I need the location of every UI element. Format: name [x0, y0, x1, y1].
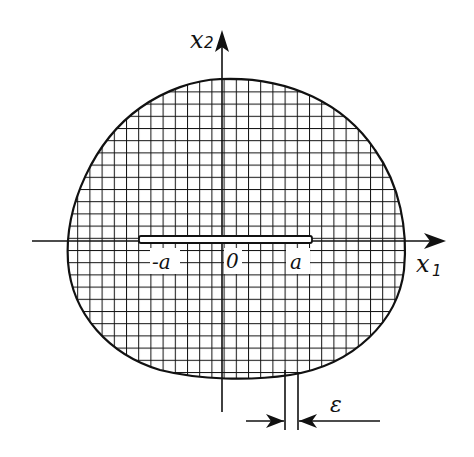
origin-label: 0 — [226, 249, 239, 273]
crack-left-tip-label: -a — [152, 250, 171, 274]
x2-axis-subscript: 2 — [204, 34, 214, 52]
x2-axis-label: x — [190, 26, 204, 54]
epsilon-dimension — [246, 370, 380, 430]
crack — [139, 236, 312, 243]
crack-diagram: x 2 x 1 -a 0 a ε — [0, 0, 474, 457]
crack-right-tip-label: a — [290, 250, 302, 274]
elastic-body — [0, 0, 474, 457]
epsilon-label: ε — [330, 392, 342, 417]
x1-axis-subscript: 1 — [432, 262, 442, 280]
x1-axis-label: x — [416, 250, 430, 278]
